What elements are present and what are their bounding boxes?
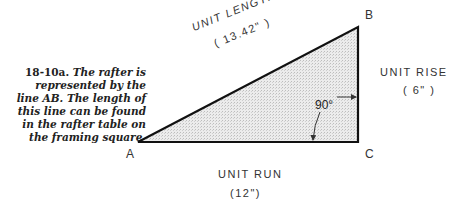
unit-rise-label: UNIT RISE — [380, 66, 448, 78]
triangle-abc — [138, 27, 358, 142]
unit-rise-value: ( 6" ) — [403, 84, 435, 96]
unit-run-label: UNIT RUN — [218, 168, 282, 180]
vertex-label-b: B — [365, 8, 375, 22]
vertex-label-a: A — [126, 147, 136, 161]
right-angle-label: 90° — [315, 98, 333, 112]
vertex-label-c: C — [365, 147, 375, 161]
unit-run-value: (12") — [230, 187, 261, 199]
